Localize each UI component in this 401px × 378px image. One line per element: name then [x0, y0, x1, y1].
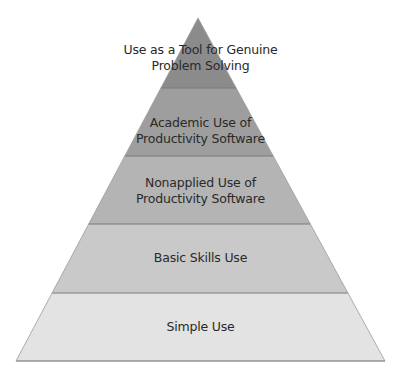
tier-label-line: Nonapplied Use of: [0, 175, 401, 191]
tier-label-line: Simple Use: [0, 319, 401, 335]
tier-label-line: Productivity Software: [0, 131, 401, 147]
tier-label-line: Basic Skills Use: [0, 250, 401, 266]
tier-label-genuine-problem-solving: Use as a Tool for Genuine Problem Solvin…: [0, 42, 401, 74]
tier-label-line: Productivity Software: [0, 191, 401, 207]
tier-label-academic-use: Academic Use of Productivity Software: [0, 115, 401, 147]
tier-label-simple-use: Simple Use: [0, 319, 401, 335]
tier-label-basic-skills-use: Basic Skills Use: [0, 250, 401, 266]
tier-label-line: Problem Solving: [0, 58, 401, 74]
tier-label-line: Use as a Tool for Genuine: [0, 42, 401, 58]
tier-label-nonapplied-use: Nonapplied Use of Productivity Software: [0, 175, 401, 207]
tier-label-line: Academic Use of: [0, 115, 401, 131]
